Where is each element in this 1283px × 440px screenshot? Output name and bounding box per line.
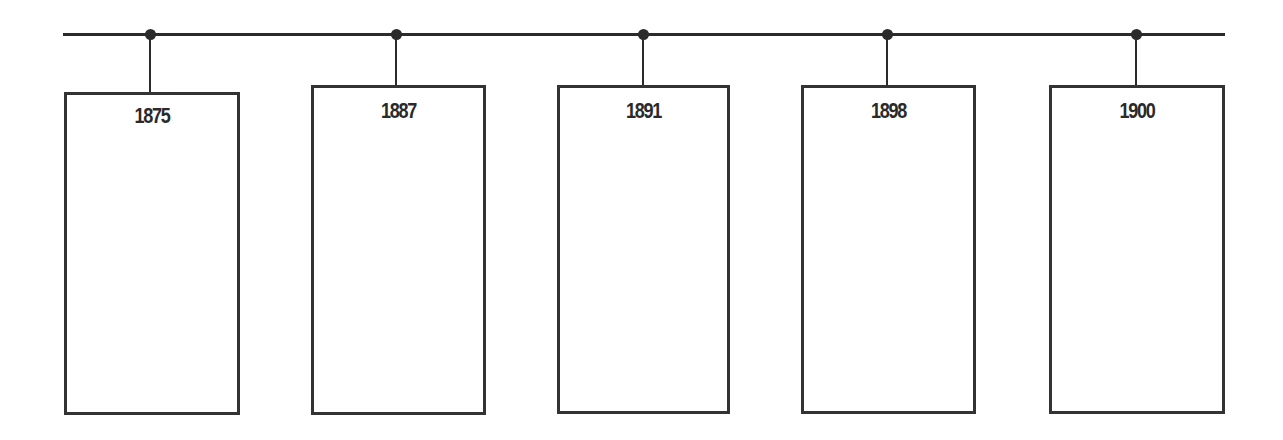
- event-year-label: 1891: [575, 98, 712, 124]
- timeline-connector: [149, 35, 151, 93]
- event-box: 1891: [557, 85, 730, 414]
- timeline-connector: [395, 35, 397, 86]
- timeline-connector: [886, 35, 888, 86]
- event-year-label: 1900: [1067, 98, 1206, 124]
- timeline-connector: [1135, 35, 1137, 86]
- event-year-label: 1898: [819, 98, 958, 124]
- event-box: 1875: [64, 92, 240, 415]
- timeline-connector: [642, 35, 644, 86]
- event-box: 1887: [311, 85, 486, 415]
- event-box: 1900: [1049, 85, 1225, 414]
- event-box: 1898: [801, 85, 976, 414]
- event-year-label: 1875: [82, 103, 221, 129]
- event-year-label: 1887: [329, 98, 468, 124]
